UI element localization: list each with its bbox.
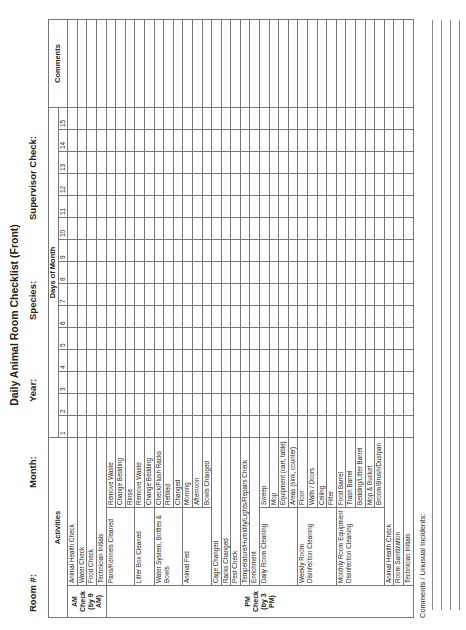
check-cell[interactable] <box>164 174 174 196</box>
check-cell[interactable] <box>77 108 87 130</box>
check-cell[interactable] <box>317 152 327 174</box>
check-cell[interactable] <box>365 240 375 262</box>
check-cell[interactable] <box>154 306 164 328</box>
check-cell[interactable] <box>173 284 183 306</box>
check-cell[interactable] <box>317 108 327 130</box>
check-cell[interactable] <box>212 394 222 416</box>
check-cell[interactable] <box>260 130 270 152</box>
check-cell[interactable] <box>87 328 97 350</box>
check-cell[interactable] <box>403 240 413 262</box>
check-cell[interactable] <box>308 284 318 306</box>
check-cell[interactable] <box>68 196 78 218</box>
check-cell[interactable] <box>144 130 154 152</box>
check-cell[interactable] <box>394 108 404 130</box>
check-cell[interactable] <box>346 284 356 306</box>
check-cell[interactable] <box>260 372 270 394</box>
check-cell[interactable] <box>231 306 241 328</box>
check-cell[interactable] <box>250 394 260 416</box>
check-cell[interactable] <box>192 196 202 218</box>
check-cell[interactable] <box>212 350 222 372</box>
check-cell[interactable] <box>87 240 97 262</box>
check-cell[interactable] <box>279 174 289 196</box>
check-cell[interactable] <box>96 262 106 284</box>
comment-cell[interactable] <box>288 20 298 108</box>
check-cell[interactable] <box>356 394 366 416</box>
check-cell[interactable] <box>394 240 404 262</box>
check-cell[interactable] <box>116 108 126 130</box>
check-cell[interactable] <box>106 240 116 262</box>
check-cell[interactable] <box>384 416 394 438</box>
comment-cell[interactable] <box>375 20 385 108</box>
check-cell[interactable] <box>164 394 174 416</box>
check-cell[interactable] <box>192 262 202 284</box>
check-cell[interactable] <box>96 196 106 218</box>
comment-cell[interactable] <box>384 20 394 108</box>
comment-cell[interactable] <box>231 20 241 108</box>
check-cell[interactable] <box>96 372 106 394</box>
check-cell[interactable] <box>77 130 87 152</box>
check-cell[interactable] <box>250 130 260 152</box>
check-cell[interactable] <box>279 284 289 306</box>
supervisor-check-field[interactable]: Supervisor Check: <box>27 136 38 220</box>
check-cell[interactable] <box>202 262 212 284</box>
check-cell[interactable] <box>77 372 87 394</box>
check-cell[interactable] <box>327 108 337 130</box>
check-cell[interactable] <box>240 284 250 306</box>
check-cell[interactable] <box>279 262 289 284</box>
check-cell[interactable] <box>231 218 241 240</box>
check-cell[interactable] <box>125 108 135 130</box>
check-cell[interactable] <box>135 240 145 262</box>
check-cell[interactable] <box>173 240 183 262</box>
check-cell[interactable] <box>250 108 260 130</box>
check-cell[interactable] <box>77 240 87 262</box>
check-cell[interactable] <box>192 328 202 350</box>
comment-cell[interactable] <box>135 20 145 108</box>
check-cell[interactable] <box>375 174 385 196</box>
check-cell[interactable] <box>298 218 308 240</box>
check-cell[interactable] <box>144 350 154 372</box>
check-cell[interactable] <box>269 152 279 174</box>
comment-cell[interactable] <box>403 20 413 108</box>
check-cell[interactable] <box>96 240 106 262</box>
check-cell[interactable] <box>269 306 279 328</box>
check-cell[interactable] <box>87 350 97 372</box>
check-cell[interactable] <box>116 174 126 196</box>
check-cell[interactable] <box>125 152 135 174</box>
check-cell[interactable] <box>231 284 241 306</box>
check-cell[interactable] <box>77 350 87 372</box>
check-cell[interactable] <box>164 350 174 372</box>
check-cell[interactable] <box>183 218 193 240</box>
check-cell[interactable] <box>240 174 250 196</box>
check-cell[interactable] <box>183 394 193 416</box>
check-cell[interactable] <box>384 284 394 306</box>
check-cell[interactable] <box>135 218 145 240</box>
check-cell[interactable] <box>164 372 174 394</box>
check-cell[interactable] <box>356 350 366 372</box>
check-cell[interactable] <box>183 108 193 130</box>
check-cell[interactable] <box>125 416 135 438</box>
comment-cell[interactable] <box>144 20 154 108</box>
check-cell[interactable] <box>77 416 87 438</box>
check-cell[interactable] <box>375 152 385 174</box>
check-cell[interactable] <box>164 196 174 218</box>
check-cell[interactable] <box>279 196 289 218</box>
check-cell[interactable] <box>375 416 385 438</box>
check-cell[interactable] <box>231 240 241 262</box>
check-cell[interactable] <box>221 196 231 218</box>
check-cell[interactable] <box>250 328 260 350</box>
check-cell[interactable] <box>173 306 183 328</box>
check-cell[interactable] <box>327 284 337 306</box>
check-cell[interactable] <box>365 328 375 350</box>
check-cell[interactable] <box>192 306 202 328</box>
year-field[interactable]: Year: <box>27 379 38 402</box>
check-cell[interactable] <box>269 372 279 394</box>
check-cell[interactable] <box>106 196 116 218</box>
check-cell[interactable] <box>87 306 97 328</box>
check-cell[interactable] <box>346 306 356 328</box>
check-cell[interactable] <box>183 350 193 372</box>
check-cell[interactable] <box>288 306 298 328</box>
check-cell[interactable] <box>375 328 385 350</box>
check-cell[interactable] <box>327 262 337 284</box>
check-cell[interactable] <box>164 284 174 306</box>
check-cell[interactable] <box>356 174 366 196</box>
